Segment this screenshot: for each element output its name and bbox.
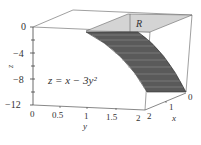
z-tick-0: 0 xyxy=(21,21,26,32)
x-tick-0: 0 xyxy=(188,92,193,102)
region-label: R xyxy=(135,18,142,29)
equation-label: z = x − 3y² xyxy=(47,74,97,86)
z-axis-label: z xyxy=(6,64,15,69)
surface-plot: 0 −4 −8 −12 z z = x − 3y² R 0 0.5 1 1.5 … xyxy=(0,0,201,145)
base-axes xyxy=(33,93,186,110)
y-tick-0: 0 xyxy=(30,109,35,119)
z-tick-minus8: −8 xyxy=(13,74,24,85)
z-tick-minus12: −12 xyxy=(5,99,21,110)
x-axis-label: x xyxy=(171,113,176,123)
y-tick-2: 2 xyxy=(136,113,141,123)
x-tick-2: 2 xyxy=(147,111,152,121)
y-tick-1: 1 xyxy=(84,111,89,121)
z-axis xyxy=(30,27,35,105)
z-tick-minus4: −4 xyxy=(13,48,24,59)
y-tick-1.5: 1.5 xyxy=(106,112,118,122)
y-tick-0.5: 0.5 xyxy=(52,110,64,120)
y-axis-label: y xyxy=(82,121,87,131)
surface xyxy=(86,32,186,92)
x-tick-1: 1 xyxy=(169,102,174,112)
